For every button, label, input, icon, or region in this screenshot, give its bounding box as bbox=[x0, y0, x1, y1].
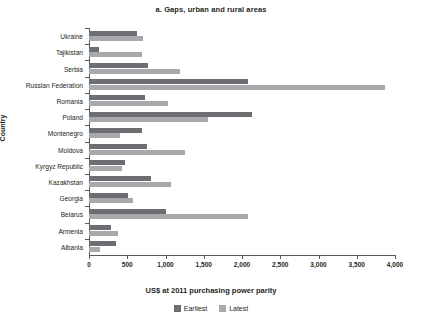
y-axis-tick bbox=[85, 60, 89, 61]
y-axis-category-label: Moldova bbox=[58, 146, 83, 153]
x-axis-tick bbox=[204, 255, 205, 259]
y-axis-category-label: Kyrgyz Republic bbox=[35, 162, 83, 169]
legend-item-earliest[interactable]: Earliest bbox=[174, 305, 207, 312]
y-axis-category-label: Albania bbox=[61, 243, 83, 250]
x-axis-tick-label: 2,000 bbox=[234, 261, 250, 268]
x-axis-tick bbox=[89, 255, 90, 259]
bar-latest bbox=[89, 198, 133, 203]
y-axis-tick bbox=[85, 125, 89, 126]
bar-latest bbox=[89, 166, 122, 171]
bar-latest bbox=[89, 247, 100, 252]
x-axis-tick-label: 500 bbox=[122, 261, 133, 268]
legend-swatch-icon bbox=[174, 305, 181, 312]
legend-swatch-icon bbox=[219, 305, 226, 312]
bar-latest bbox=[89, 69, 180, 74]
chart-legend: EarliestLatest bbox=[0, 305, 422, 312]
y-axis-tick bbox=[85, 223, 89, 224]
x-axis-label: US$ at 2011 purchasing power parity bbox=[0, 286, 422, 295]
x-axis-tick-label: 0 bbox=[87, 261, 91, 268]
bar-latest bbox=[89, 214, 248, 219]
bar-latest bbox=[89, 231, 118, 236]
y-axis-category-label: Kazakhstan bbox=[49, 179, 83, 186]
bar-earliest bbox=[89, 63, 148, 68]
y-axis-category-label: Belarus bbox=[61, 211, 83, 218]
x-axis-tick bbox=[395, 255, 396, 259]
bar-earliest bbox=[89, 79, 248, 84]
y-axis-tick bbox=[85, 190, 89, 191]
x-axis-tick-label: 1,000 bbox=[157, 261, 173, 268]
y-axis-tick bbox=[85, 28, 89, 29]
y-axis-tick bbox=[85, 158, 89, 159]
y-axis-label: Country bbox=[0, 115, 6, 142]
y-axis-category-label: Georgia bbox=[60, 195, 83, 202]
bar-latest bbox=[89, 182, 171, 187]
y-axis-tick bbox=[85, 77, 89, 78]
y-axis-category-label: Ukraine bbox=[60, 33, 83, 40]
bar-earliest bbox=[89, 31, 137, 36]
y-axis-tick bbox=[85, 109, 89, 110]
legend-item-latest[interactable]: Latest bbox=[219, 305, 248, 312]
y-axis-tick bbox=[85, 93, 89, 94]
bar-earliest bbox=[89, 112, 252, 117]
bar-earliest bbox=[89, 160, 125, 165]
bar-latest bbox=[89, 52, 142, 57]
x-axis-tick-label: 4,000 bbox=[387, 261, 403, 268]
bar-earliest bbox=[89, 176, 151, 181]
y-axis-category-label: Romania bbox=[57, 97, 83, 104]
x-axis-tick bbox=[127, 255, 128, 259]
x-axis-tick-label: 3,000 bbox=[310, 261, 326, 268]
bar-earliest bbox=[89, 241, 116, 246]
x-axis-tick-label: 1,500 bbox=[196, 261, 212, 268]
y-axis-category-label: Serbia bbox=[64, 65, 83, 72]
bar-earliest bbox=[89, 47, 99, 52]
x-axis-tick-label: 2,500 bbox=[272, 261, 288, 268]
chart-figure: a. Gaps, urban and rural areas Country 0… bbox=[0, 0, 422, 327]
y-axis-tick bbox=[85, 44, 89, 45]
bar-latest bbox=[89, 85, 385, 90]
legend-label: Earliest bbox=[184, 305, 207, 312]
bar-latest bbox=[89, 36, 143, 41]
bar-latest bbox=[89, 133, 120, 138]
y-axis-tick bbox=[85, 206, 89, 207]
bar-earliest bbox=[89, 193, 128, 198]
legend-label: Latest bbox=[229, 305, 248, 312]
x-axis-tick bbox=[357, 255, 358, 259]
plot-area: 05001,0001,5002,0002,5003,0003,5004,000U… bbox=[89, 28, 395, 255]
bar-earliest bbox=[89, 144, 147, 149]
bar-earliest bbox=[89, 209, 166, 214]
bar-latest bbox=[89, 101, 168, 106]
y-axis-category-label: Tajikistan bbox=[56, 49, 83, 56]
y-axis-category-label: Russian Federation bbox=[26, 81, 83, 88]
y-axis-tick bbox=[85, 239, 89, 240]
y-axis-category-label: Poland bbox=[62, 114, 83, 121]
bar-latest bbox=[89, 117, 208, 122]
y-axis-category-label: Armenia bbox=[58, 227, 83, 234]
y-axis-tick bbox=[85, 174, 89, 175]
x-axis-tick bbox=[280, 255, 281, 259]
bar-earliest bbox=[89, 225, 111, 230]
bar-earliest bbox=[89, 128, 142, 133]
bar-latest bbox=[89, 150, 185, 155]
bar-earliest bbox=[89, 95, 145, 100]
y-axis-category-label: Montenegro bbox=[48, 130, 83, 137]
x-axis-tick bbox=[166, 255, 167, 259]
x-axis-tick-label: 3,500 bbox=[349, 261, 365, 268]
y-axis-tick bbox=[85, 142, 89, 143]
chart-title: a. Gaps, urban and rural areas bbox=[0, 5, 422, 14]
x-axis-tick bbox=[242, 255, 243, 259]
x-axis-tick bbox=[319, 255, 320, 259]
